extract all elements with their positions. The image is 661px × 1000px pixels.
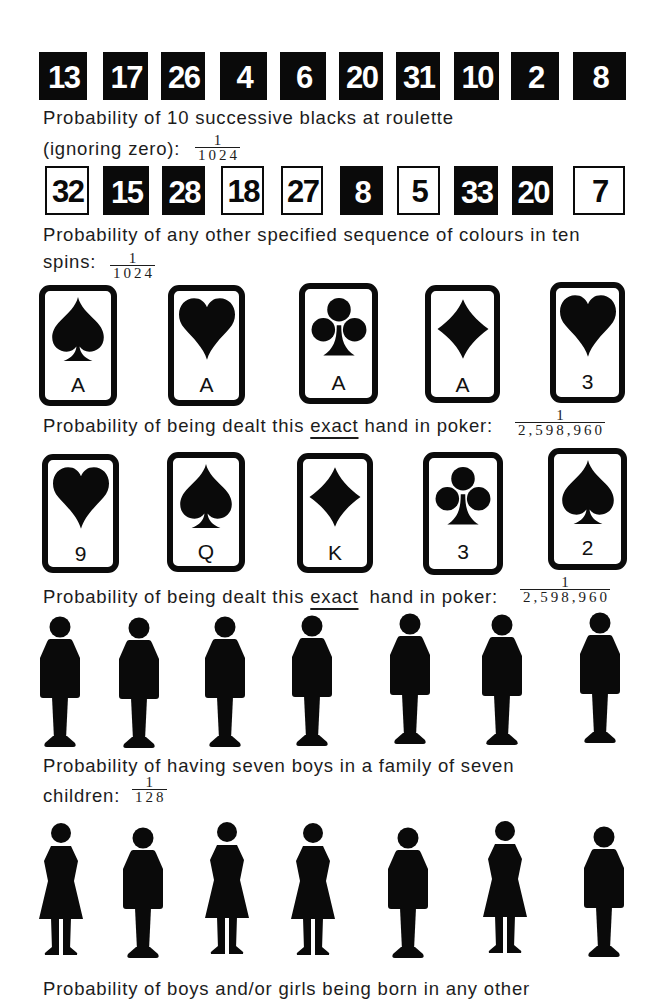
book-page: 13 17 26 4 6 20 31 10 2 8 Probability of… [0, 0, 661, 1000]
roulette-number-box: 18 [221, 166, 264, 215]
fraction-denominator: 1024 [110, 265, 155, 280]
roulette-number-box: 10 [454, 52, 499, 100]
diamond-icon [307, 465, 363, 529]
playing-card: A [168, 285, 245, 406]
roulette-number-box: 6 [280, 52, 326, 100]
girl-icon [39, 821, 83, 959]
boy-icon [480, 609, 524, 747]
card-rank: 2 [554, 537, 621, 558]
caption-emphasis: exact [310, 415, 358, 436]
roulette-number: 10 [462, 62, 493, 93]
club-icon [311, 295, 367, 359]
roulette-number-box: 4 [220, 52, 267, 100]
playing-card: A [299, 283, 378, 404]
boy-icon [386, 822, 430, 960]
roulette-number: 5 [411, 176, 427, 207]
roulette-number: 27 [287, 176, 318, 207]
roulette-number-box: 33 [454, 166, 498, 215]
roulette-number: 8 [592, 62, 608, 93]
family-1-caption-continued: children: [43, 785, 120, 807]
probability-fraction: 1 2,598,960 [520, 576, 610, 604]
playing-card: 2 [548, 448, 627, 570]
caption-text: hand in poker: [359, 586, 498, 607]
club-icon [435, 464, 491, 528]
roulette-number: 20 [518, 177, 549, 208]
roulette-number: 15 [111, 177, 142, 208]
card-rank: A [174, 374, 239, 395]
roulette-number-box: 26 [161, 52, 205, 100]
caption-emphasis: exact [310, 586, 358, 607]
roulette-number-box: 20 [339, 52, 383, 100]
playing-card: K [297, 453, 373, 573]
probability-fraction: 1 128 [132, 776, 167, 804]
roulette-number-box: 8 [573, 52, 626, 100]
caption-text: Probability of being dealt this [43, 586, 310, 607]
card-rank: A [305, 372, 372, 393]
roulette-number-box: 13 [39, 52, 87, 100]
playing-card: A [39, 285, 117, 406]
family-2-caption: Probability of boys and/or girls being b… [43, 978, 530, 1000]
boy-icon [582, 821, 626, 959]
fraction-numerator: 1 [146, 776, 154, 789]
playing-card: A [425, 285, 500, 403]
boy-icon [38, 611, 82, 749]
roulette-number: 4 [236, 62, 252, 93]
roulette-2-caption-continued: spins: [43, 251, 96, 273]
roulette-number-box: 2 [511, 52, 559, 100]
fraction-denominator: 1024 [195, 147, 240, 162]
roulette-number-box: 20 [512, 166, 553, 215]
fraction-numerator: 1 [129, 252, 137, 265]
boy-icon [290, 610, 334, 748]
roulette-number-box: 7 [573, 166, 625, 215]
roulette-number-box: 17 [103, 52, 148, 100]
spade-icon [560, 460, 616, 524]
roulette-number-box: 15 [103, 166, 149, 215]
girl-icon [483, 819, 527, 957]
fraction-denominator: 128 [132, 789, 167, 804]
poker-hand-1-caption: Probability of being dealt this exact ha… [43, 415, 493, 437]
fraction-numerator: 1 [556, 409, 564, 422]
boy-icon [388, 608, 432, 746]
roulette-number: 17 [111, 62, 142, 93]
girl-icon [291, 821, 335, 959]
fraction-numerator: 1 [561, 576, 569, 589]
roulette-number: 8 [354, 177, 370, 208]
playing-card: 9 [42, 454, 119, 573]
card-rank: 3 [429, 541, 497, 562]
playing-card: 3 [550, 282, 625, 403]
boy-icon [121, 822, 165, 960]
roulette-number-box: 5 [397, 166, 440, 215]
fraction-numerator: 1 [214, 134, 222, 147]
roulette-number-box: 28 [162, 166, 205, 215]
roulette-number: 26 [168, 62, 199, 93]
boy-icon [117, 612, 161, 750]
roulette-number: 20 [346, 62, 377, 93]
poker-hand-2-caption: Probability of being dealt this exact ha… [43, 586, 498, 608]
roulette-number-box: 31 [396, 52, 440, 100]
roulette-number: 13 [48, 62, 79, 93]
card-rank: 3 [556, 371, 619, 392]
roulette-number: 2 [528, 62, 544, 93]
probability-fraction: 1 2,598,960 [515, 409, 605, 437]
roulette-1-caption-continued: (ignoring zero): [43, 138, 180, 160]
card-rank: A [431, 374, 494, 395]
heart-icon [53, 466, 109, 530]
probability-fraction: 1 1024 [195, 134, 240, 162]
boy-icon [203, 611, 247, 749]
card-rank: Q [173, 541, 239, 562]
roulette-number-box: 27 [281, 166, 323, 215]
heart-icon [179, 297, 235, 361]
roulette-number: 32 [52, 176, 83, 207]
roulette-number-box: 32 [45, 166, 89, 215]
roulette-number: 7 [592, 176, 608, 207]
heart-icon [560, 294, 616, 358]
roulette-number: 18 [228, 176, 259, 207]
roulette-number: 33 [461, 177, 492, 208]
playing-card: 3 [423, 452, 503, 575]
caption-text: Probability of being dealt this [43, 415, 310, 436]
diamond-icon [435, 297, 491, 361]
spade-icon [50, 297, 106, 361]
card-rank: 9 [48, 543, 113, 564]
roulette-number: 28 [169, 177, 200, 208]
fraction-denominator: 2,598,960 [515, 422, 605, 437]
